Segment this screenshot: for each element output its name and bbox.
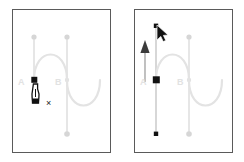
handle-knob-a-top[interactable] [31, 34, 36, 39]
point-label-b: B [177, 78, 184, 87]
point-label-a: A [18, 78, 25, 87]
handle-knob-b-bottom[interactable] [64, 131, 70, 137]
panel-delete-anchor: A B × [12, 9, 111, 153]
handle-endpoint-a-bottom[interactable] [154, 132, 158, 136]
up-arrow-icon [140, 40, 149, 82]
handle-knob-b-top[interactable] [186, 34, 191, 39]
handle-knob-b-top[interactable] [64, 34, 69, 39]
figure-root: A B × [0, 0, 244, 162]
panel-drag-handle: A B [134, 9, 233, 153]
delete-x-icon: × [46, 99, 51, 108]
handle-knob-b-bottom[interactable] [186, 131, 192, 137]
pen-cursor [28, 81, 44, 107]
point-label-a: A [140, 78, 147, 87]
point-label-b: B [55, 78, 62, 87]
arrow-cursor [156, 24, 169, 43]
anchor-a-selected[interactable] [153, 76, 160, 83]
